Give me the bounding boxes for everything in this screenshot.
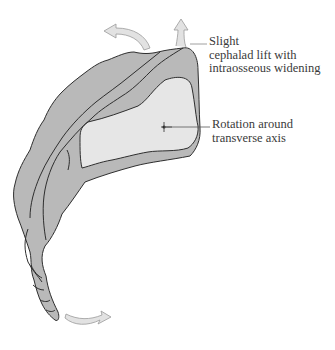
- annotation-line: Rotation around: [212, 118, 293, 132]
- annotation-line: cephalad lift with: [209, 49, 320, 63]
- annotation-line: Slight: [209, 35, 320, 49]
- cephalad-lift-arrow-icon: [174, 19, 188, 47]
- annotation-line: transverse axis: [212, 132, 293, 146]
- rotation-annotation: Rotation around transverse axis: [212, 118, 293, 145]
- annotation-line: intraosseous widening: [209, 62, 320, 76]
- cephalad-lift-annotation: Slight cephalad lift with intraosseous w…: [209, 35, 320, 76]
- coccyx-rotation-arrow-icon: [65, 311, 111, 324]
- rotation-arrow-icon: [104, 24, 150, 50]
